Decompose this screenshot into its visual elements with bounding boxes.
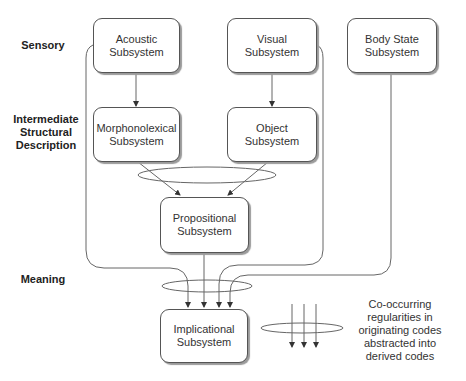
arrow-visual-to-implicational <box>219 45 323 307</box>
meaning-abstraction-ellipse <box>162 280 252 292</box>
level-label-meaning: Meaning <box>18 273 68 286</box>
level-label-sensory: Sensory <box>18 39 68 52</box>
object-subsystem-box: Object Subsystem <box>227 107 317 162</box>
level-label-intermediate: Intermediate Structural Description <box>10 113 82 152</box>
intermediate-abstraction-ellipse <box>138 167 276 183</box>
visual-subsystem-box: Visual Subsystem <box>227 18 317 73</box>
acoustic-subsystem-box: Acoustic Subsystem <box>93 18 180 73</box>
arrow-acoustic-to-implicational <box>86 45 188 307</box>
morphonolexical-subsystem-box: Morphonolexical Subsystem <box>93 107 180 162</box>
legend-ellipse <box>261 323 343 333</box>
arrow-object-to-propositional <box>228 162 268 195</box>
body-state-subsystem-box: Body State Subsystem <box>347 18 437 73</box>
propositional-subsystem-box: Propositional Subsystem <box>160 197 249 253</box>
legend-description: Co-occurring regularities in originating… <box>345 298 455 363</box>
implicational-subsystem-box: Implicational Subsystem <box>160 309 248 363</box>
